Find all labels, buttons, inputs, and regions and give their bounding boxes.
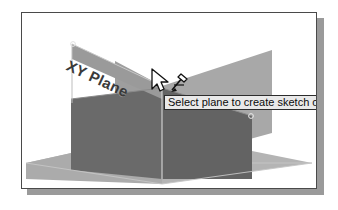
plane-front-left-dark [71, 88, 162, 179]
cad-viewport[interactable]: XY Plane Select plane to create sketch o… [22, 13, 316, 188]
screenshot-root: XY Plane Select plane to create sketch o… [0, 0, 338, 210]
status-tooltip: Select plane to create sketch or [164, 95, 316, 110]
viewport-frame: XY Plane Select plane to create sketch o… [21, 12, 317, 189]
